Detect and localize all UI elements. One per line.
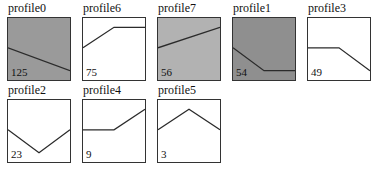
- profile-tile: profile675: [82, 1, 146, 81]
- profile-tile: profile53: [157, 83, 221, 163]
- profile-title: profile2: [8, 83, 46, 97]
- profile-title: profile7: [158, 1, 196, 15]
- profile-count: 23: [11, 148, 22, 160]
- profile-count: 56: [161, 66, 172, 78]
- profile-title: profile6: [83, 1, 121, 15]
- profile-tile: profile49: [82, 83, 146, 163]
- profile-plot: 125: [7, 17, 71, 81]
- profile-plot: 9: [82, 99, 146, 163]
- profile-title: profile5: [158, 83, 196, 97]
- profile-tile: profile0125: [7, 1, 71, 81]
- profile-plot: 23: [7, 99, 71, 163]
- profile-count: 49: [311, 66, 322, 78]
- profile-tile: profile223: [7, 83, 71, 163]
- profile-count: 3: [161, 148, 167, 160]
- profile-count: 54: [236, 66, 247, 78]
- profile-tile: profile154: [232, 1, 296, 81]
- profile-count: 125: [11, 66, 28, 78]
- profile-plot: 49: [307, 17, 371, 81]
- profile-tile: profile756: [157, 1, 221, 81]
- profile-plot: 54: [232, 17, 296, 81]
- profile-line: [83, 100, 145, 162]
- profile-title: profile0: [8, 1, 46, 15]
- profile-title: profile4: [83, 83, 121, 97]
- profile-line: [158, 100, 220, 162]
- profile-plot: 75: [82, 17, 146, 81]
- profile-tile: profile349: [307, 1, 371, 81]
- profile-title: profile1: [233, 1, 271, 15]
- profile-count: 9: [86, 148, 92, 160]
- profile-count: 75: [86, 66, 97, 78]
- profile-plot: 3: [157, 99, 221, 163]
- profile-plot: 56: [157, 17, 221, 81]
- profile-title: profile3: [308, 1, 346, 15]
